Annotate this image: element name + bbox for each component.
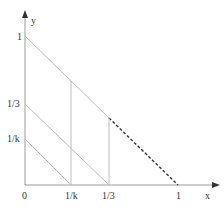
x-tick-1-3: 1/3: [102, 190, 115, 201]
y-axis-arrow-icon: [22, 10, 28, 18]
diagonal-1-dashed: [109, 118, 178, 185]
y-axis-label: y: [31, 15, 36, 26]
y-tick-1-k: 1/k: [7, 133, 20, 144]
x-axis-label: x: [205, 190, 210, 201]
origin-label: 0: [22, 190, 27, 201]
x-tick-1: 1: [176, 190, 181, 201]
diagonal-1-solid: [25, 36, 109, 118]
diagonal-1-k: [25, 139, 71, 185]
x-tick-1-k: 1/k: [65, 190, 78, 201]
x-axis-arrow-icon: [212, 182, 220, 188]
y-tick-1: 1: [17, 31, 22, 42]
diagram-canvas: y x 0 1 1/3 1/k 1/k 1/3 1: [0, 0, 224, 208]
diagonal-1-3: [25, 104, 109, 185]
y-tick-1-3: 1/3: [7, 98, 20, 109]
